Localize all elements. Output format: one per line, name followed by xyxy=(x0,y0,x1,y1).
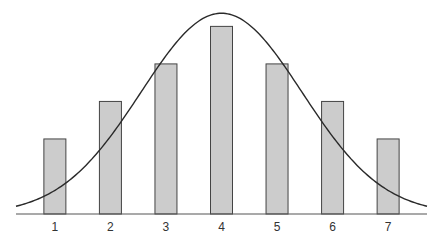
bar-5 xyxy=(266,64,288,214)
bar-3 xyxy=(155,64,177,214)
bars-group xyxy=(44,26,399,214)
x-tick-label: 5 xyxy=(274,220,281,234)
x-tick-labels: 1234567 xyxy=(52,220,392,234)
bar-2 xyxy=(99,101,121,214)
bar-7 xyxy=(377,139,399,214)
x-tick-label: 7 xyxy=(385,220,392,234)
x-tick-label: 3 xyxy=(163,220,170,234)
x-tick-label: 2 xyxy=(107,220,114,234)
bar-chart: 1234567 xyxy=(0,0,443,244)
bar-4 xyxy=(211,26,233,214)
bar-6 xyxy=(322,101,344,214)
x-tick-label: 6 xyxy=(329,220,336,234)
x-tick-label: 4 xyxy=(218,220,225,234)
x-tick-label: 1 xyxy=(52,220,59,234)
bar-1 xyxy=(44,139,66,214)
